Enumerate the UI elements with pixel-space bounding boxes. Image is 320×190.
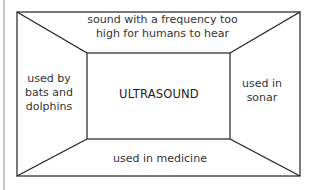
center-term: ULTRASOUND <box>90 87 228 101</box>
panel-right-use: used in sonar <box>232 77 292 105</box>
panel-top-definition: sound with a frequency too high for huma… <box>80 13 245 41</box>
panel-left-example: used by bats and dolphins <box>20 72 78 114</box>
panel-bottom-use: used in medicine <box>95 152 225 166</box>
